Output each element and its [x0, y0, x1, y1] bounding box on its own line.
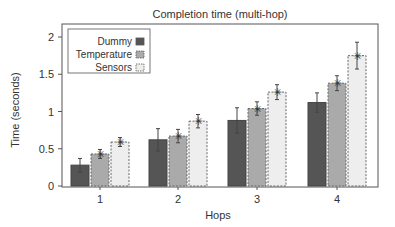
asterisk-marker-icon: ✳ — [174, 130, 183, 142]
legend-swatch — [136, 51, 144, 58]
x-tick-label: 4 — [334, 193, 340, 205]
bar — [111, 142, 129, 186]
legend-label: Dummy — [98, 36, 132, 47]
bar — [169, 136, 187, 186]
bar — [348, 56, 366, 186]
bar — [248, 109, 266, 186]
bar — [308, 103, 326, 186]
asterisk-marker-icon: ✳ — [353, 50, 362, 62]
asterisk-marker-icon: ✳ — [194, 115, 203, 127]
asterisk-marker-icon: ✳ — [116, 136, 125, 148]
y-axis-label: Time (seconds) — [9, 72, 21, 147]
y-tick-label: 1 — [48, 106, 54, 118]
legend-swatch — [136, 64, 144, 71]
x-axis: 1234 — [97, 187, 340, 205]
bar — [268, 92, 286, 186]
legend-swatch — [136, 38, 144, 45]
y-tick-label: 1.5 — [39, 68, 54, 80]
x-tick-label: 2 — [175, 193, 181, 205]
asterisk-marker-icon: ✳ — [96, 148, 105, 160]
legend: DummyTemperatureSensors — [68, 29, 150, 73]
bar-chart: Completion time (multi-hop) 00.511.52 12… — [0, 0, 395, 227]
chart-title: Completion time (multi-hop) — [152, 8, 287, 20]
x-tick-label: 3 — [254, 193, 260, 205]
x-axis-label: Hops — [205, 209, 231, 221]
y-tick-label: 0.5 — [39, 143, 54, 155]
asterisk-marker-icon: ✳ — [273, 86, 282, 98]
bar — [189, 121, 207, 186]
legend-label: Sensors — [95, 62, 132, 73]
x-tick-label: 1 — [97, 193, 103, 205]
y-tick-label: 2 — [48, 31, 54, 43]
y-axis: 00.511.52 — [39, 31, 62, 192]
asterisk-marker-icon: ✳ — [333, 77, 342, 89]
bar — [328, 83, 346, 186]
asterisk-marker-icon: ✳ — [253, 103, 262, 115]
y-tick-label: 0 — [48, 180, 54, 192]
legend-label: Temperature — [76, 49, 133, 60]
